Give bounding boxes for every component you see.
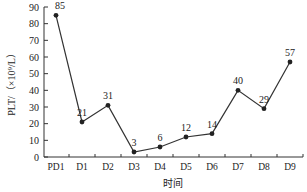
y-tick-label: 30 xyxy=(29,102,39,113)
x-tick-label: D4 xyxy=(154,162,166,172)
y-axis-label: PLT/（×10⁹/L） xyxy=(6,48,17,116)
x-axis: PD1D1D2D3D4D5D6D7D8D9 xyxy=(44,154,303,172)
data-label: 40 xyxy=(233,75,243,86)
data-point xyxy=(184,135,189,140)
data-point xyxy=(132,150,137,155)
y-tick-label: 20 xyxy=(29,118,39,129)
data-label: 31 xyxy=(103,90,113,101)
y-tick-label: 90 xyxy=(29,2,39,13)
data-label: 29 xyxy=(259,94,269,105)
x-tick-label: PD1 xyxy=(48,162,65,172)
data-point xyxy=(54,13,59,18)
data-point xyxy=(80,120,85,125)
y-tick-label: 0 xyxy=(34,152,39,163)
data-point xyxy=(106,103,111,108)
data-label: 85 xyxy=(55,0,65,11)
x-tick-label: D9 xyxy=(284,162,296,172)
y-tick-label: 60 xyxy=(29,52,39,63)
data-point xyxy=(158,145,163,150)
data-label: 21 xyxy=(77,107,87,118)
data-label: 57 xyxy=(285,47,295,58)
x-axis-label: 时间 xyxy=(163,177,183,189)
x-tick-label: D1 xyxy=(76,162,88,172)
data-point xyxy=(262,106,267,111)
y-tick-label: 70 xyxy=(29,35,39,46)
data-label: 3 xyxy=(132,137,137,148)
data-point xyxy=(236,88,241,93)
y-tick-label: 50 xyxy=(29,68,39,79)
data-label: 12 xyxy=(181,122,191,133)
x-tick-label: D8 xyxy=(258,162,270,172)
x-tick-label: D2 xyxy=(102,162,114,172)
y-axis: 0102030405060708090 xyxy=(29,2,48,163)
y-tick-label: 80 xyxy=(29,18,39,29)
y-tick-label: 10 xyxy=(29,135,39,146)
line-chart: 0102030405060708090 PD1D1D2D3D4D5D6D7D8D… xyxy=(0,0,307,192)
data-label: 6 xyxy=(158,132,163,143)
x-tick-label: D3 xyxy=(128,162,140,172)
x-tick-label: D7 xyxy=(232,162,244,172)
data-label: 14 xyxy=(207,119,217,130)
x-tick-label: D6 xyxy=(206,162,218,172)
y-tick-label: 40 xyxy=(29,85,39,96)
data-point xyxy=(210,131,215,136)
series-plt: 852131361214402957 xyxy=(54,0,295,154)
data-point xyxy=(288,60,293,65)
x-tick-label: D5 xyxy=(180,162,192,172)
